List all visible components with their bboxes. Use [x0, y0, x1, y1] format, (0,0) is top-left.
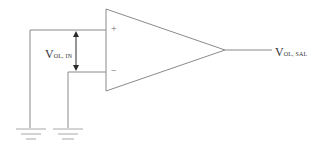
ground-symbol-2	[53, 129, 83, 139]
non-inverting-sign: +	[111, 24, 117, 34]
output-label-main: V	[275, 45, 284, 59]
input-voltage-arrow	[73, 31, 79, 71]
inverting-input-wire	[68, 72, 106, 128]
input-label-sub: OL, IN	[54, 53, 73, 59]
inverting-sign: −	[111, 66, 117, 76]
schematic-svg	[0, 0, 318, 152]
input-label-main: V	[45, 47, 54, 61]
output-label-sub: OL, SAL	[284, 51, 308, 57]
ground-symbol-1	[16, 129, 46, 139]
op-amp-diagram: + − VOL, IN VOL, SAL	[0, 0, 318, 152]
output-voltage-label: VOL, SAL	[275, 42, 307, 60]
input-voltage-label: VOL, IN	[45, 44, 72, 62]
op-amp-triangle	[106, 9, 225, 91]
